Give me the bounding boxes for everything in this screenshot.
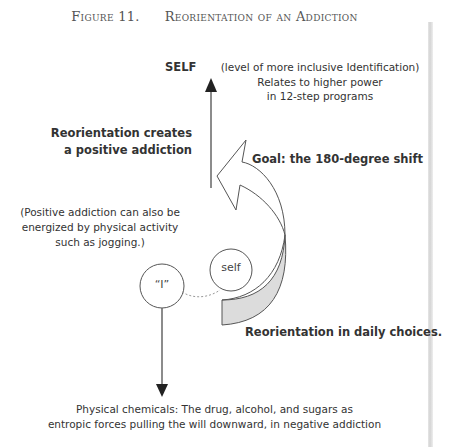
positive-note-line: energized by physical activity: [5, 220, 195, 235]
self-description-line: (level of more inclusive Identification): [205, 60, 435, 75]
chemicals-note-line: entropic forces pulling the will downwar…: [0, 417, 429, 432]
reorientation-heading: Reorientation creates a positive addicti…: [22, 125, 192, 159]
positive-note-line: (Positive addiction can also be: [5, 205, 195, 220]
goal-label: Goal: the 180-degree shift: [252, 152, 423, 167]
dotted-connector: [182, 290, 220, 297]
physical-chemicals-note: Physical chemicals: The drug, alcohol, a…: [0, 402, 429, 432]
reorientation-curved-arrow: [217, 140, 286, 325]
positive-addiction-note: (Positive addiction can also be energize…: [5, 205, 195, 250]
daily-choices-label: Reorientation in daily choices.: [245, 325, 442, 340]
self-label: SELF: [165, 60, 196, 75]
i-node-label: “I”: [146, 278, 178, 291]
reorientation-heading-line: Reorientation creates: [22, 125, 192, 142]
self-description-line: Relates to higher power: [205, 75, 435, 90]
reorientation-heading-line: a positive addiction: [22, 142, 192, 159]
downward-arrow: [156, 308, 168, 397]
positive-note-line: such as jogging.): [5, 235, 195, 250]
self-description-line: in 12-step programs: [205, 89, 435, 104]
self-node-label: self: [215, 261, 247, 274]
chemicals-note-line: Physical chemicals: The drug, alcohol, a…: [0, 402, 429, 417]
self-description: (level of more inclusive Identification)…: [205, 60, 435, 104]
